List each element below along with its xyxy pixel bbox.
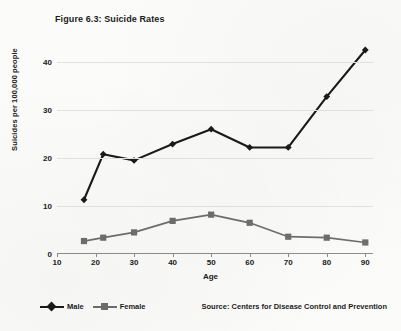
x-axis-tick-mark <box>250 254 251 257</box>
y-axis-tick-label: 10 <box>43 202 52 211</box>
data-point-male-60[interactable] <box>246 144 253 151</box>
data-point-female-50[interactable] <box>208 212 214 218</box>
data-point-female-22[interactable] <box>100 235 106 241</box>
series-line-female <box>84 215 365 243</box>
y-axis-tick-label: 0 <box>48 250 52 259</box>
x-axis-tick-label: 80 <box>322 258 331 267</box>
x-axis-tick-label: 90 <box>361 258 370 267</box>
x-axis-tick-labels: 102030405060708090 <box>57 258 373 270</box>
plot-area <box>57 38 373 254</box>
y-axis-tick-label: 40 <box>43 58 52 67</box>
y-axis-tick-labels: 010203040 <box>32 38 52 254</box>
diamond-marker-icon <box>40 303 64 311</box>
page-title: Figure 6.3: Suicide Rates <box>55 14 165 24</box>
x-axis-label: Age <box>0 272 401 281</box>
x-axis-tick-mark <box>57 254 58 257</box>
x-axis-tick-label: 20 <box>91 258 100 267</box>
chart-legend: Male Female <box>40 302 146 311</box>
legend-item-female[interactable]: Female <box>93 302 146 311</box>
legend-label-male: Male <box>67 302 84 311</box>
x-axis-tick-mark <box>327 254 328 257</box>
y-axis-tick-label: 20 <box>43 154 52 163</box>
x-axis-tick-mark <box>173 254 174 257</box>
x-axis-tick-mark <box>211 254 212 257</box>
data-point-female-60[interactable] <box>247 220 253 226</box>
data-point-male-22[interactable] <box>100 151 107 158</box>
x-axis-tick-mark <box>288 254 289 257</box>
y-axis-label: Suicides per 100,000 people <box>10 20 19 180</box>
series-layer <box>57 38 373 254</box>
figure-page: Figure 6.3: Suicide Rates Suicides per 1… <box>0 0 401 331</box>
source-note: Source: Centers for Disease Control and … <box>202 302 387 311</box>
square-marker-icon <box>93 303 117 311</box>
gridline <box>57 158 373 159</box>
x-axis-tick-label: 10 <box>53 258 62 267</box>
x-axis-tick-mark <box>96 254 97 257</box>
x-axis-tick-label: 70 <box>284 258 293 267</box>
y-axis-tick-label: 30 <box>43 106 52 115</box>
data-point-female-30[interactable] <box>131 229 137 235</box>
data-point-female-70[interactable] <box>285 234 291 240</box>
data-point-male-17[interactable] <box>81 196 88 203</box>
data-point-female-17[interactable] <box>81 238 87 244</box>
series-line-male <box>84 50 365 200</box>
data-point-female-90[interactable] <box>362 239 368 245</box>
gridline <box>57 62 373 63</box>
x-axis-tick-label: 50 <box>207 258 216 267</box>
data-point-female-40[interactable] <box>170 218 176 224</box>
data-point-male-50[interactable] <box>208 126 215 133</box>
gridline <box>57 206 373 207</box>
x-axis-tick-label: 60 <box>245 258 254 267</box>
legend-item-male[interactable]: Male <box>40 302 84 311</box>
legend-label-female: Female <box>120 302 146 311</box>
x-axis-tick-label: 30 <box>130 258 139 267</box>
x-axis-tick-mark <box>134 254 135 257</box>
gridline <box>57 110 373 111</box>
x-axis-tick-mark <box>365 254 366 257</box>
data-point-female-80[interactable] <box>324 235 330 241</box>
data-point-male-40[interactable] <box>169 141 176 148</box>
x-axis-tick-label: 40 <box>168 258 177 267</box>
